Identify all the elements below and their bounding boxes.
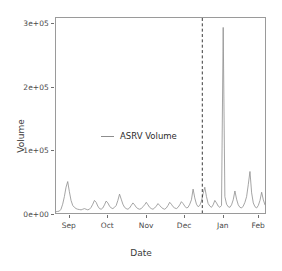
x-tick-label: Feb	[252, 221, 265, 230]
x-tick-label: Oct	[101, 221, 114, 230]
legend-line-swatch	[101, 136, 114, 137]
chart-container: Volume 0e+001e+052e+053e+05 SepOctNovDec…	[0, 0, 282, 271]
x-axis-title: Date	[0, 248, 282, 258]
x-tick-label: Jan	[217, 221, 229, 230]
x-tick-mark	[107, 215, 108, 218]
x-tick-mark	[223, 215, 224, 218]
x-tick-label: Sep	[62, 221, 76, 230]
x-tick-label: Nov	[139, 221, 154, 230]
x-tick-mark	[184, 215, 185, 218]
legend-label-asrv-volume: ASRV Volume	[120, 131, 177, 141]
x-tick-label: Dec	[177, 221, 192, 230]
x-tick-mark	[69, 215, 70, 218]
chart-legend: ASRV Volume	[101, 131, 177, 141]
x-tick-mark	[258, 215, 259, 218]
x-tick-mark	[146, 215, 147, 218]
